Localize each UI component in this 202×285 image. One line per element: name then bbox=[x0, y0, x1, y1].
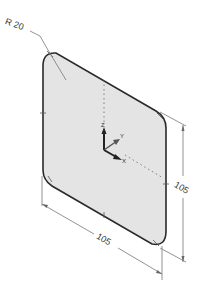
width-dim-label: 105 bbox=[95, 231, 113, 247]
drawing-canvas: R 20 Z Y X 105 105 bbox=[0, 0, 202, 285]
height-dim-label: 105 bbox=[173, 180, 191, 196]
radius-label: R 20 bbox=[4, 16, 25, 32]
x-axis-label: X bbox=[122, 158, 126, 164]
y-axis-label: Y bbox=[120, 133, 124, 139]
height-dim-arrow-top bbox=[182, 125, 185, 131]
z-axis-label: Z bbox=[101, 122, 105, 128]
